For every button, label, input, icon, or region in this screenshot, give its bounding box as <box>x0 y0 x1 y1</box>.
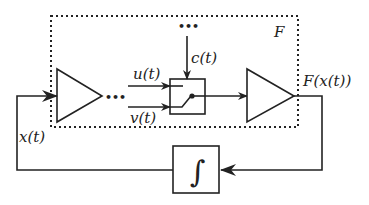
c-label: c(t) <box>191 49 217 67</box>
u-label: u(t) <box>133 65 161 83</box>
ellipsis-1: ••• <box>105 91 126 104</box>
function-block-label: F <box>273 23 285 41</box>
integral-icon: ∫ <box>190 154 206 189</box>
input-label: x(t) <box>19 128 45 146</box>
ellipsis-2: ••• <box>178 20 199 33</box>
amplifier-1 <box>57 69 102 122</box>
output-label: F(x(t)) <box>302 72 351 90</box>
v-label: v(t) <box>130 109 156 127</box>
amplifier-2 <box>247 69 294 122</box>
block-diagram: F ••• u(t) v(t) ••• c(t) F(x(t)) ∫ x(t) <box>0 0 369 205</box>
